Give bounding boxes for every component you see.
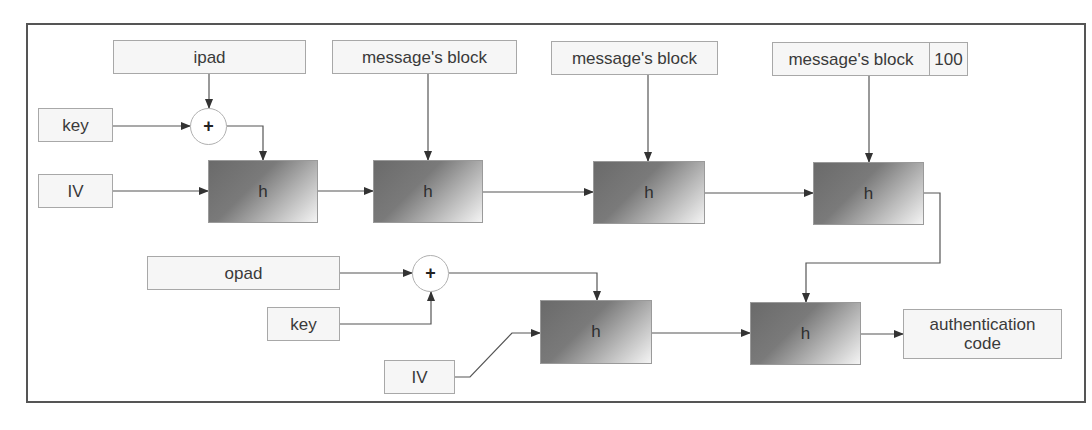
message-block-1: message's block <box>332 40 517 74</box>
hash-function-4: h <box>813 162 924 225</box>
iv-label-outer: IV <box>384 360 455 394</box>
xor-inner-icon: + <box>190 108 227 145</box>
hash-function-2: h <box>373 160 483 223</box>
hash-function-5: h <box>540 300 652 364</box>
hash-function-1: h <box>208 160 318 223</box>
iv-label-inner: IV <box>38 174 113 208</box>
hash-function-6: h <box>750 302 861 365</box>
padding-100: 100 <box>929 43 967 75</box>
authentication-code-output: authentication code <box>903 309 1062 359</box>
message-block-3-text: message's block <box>773 43 929 75</box>
ipad-label: ipad <box>113 40 306 74</box>
hash-function-3: h <box>593 161 705 224</box>
message-block-2: message's block <box>551 41 718 75</box>
key-label-outer: key <box>267 307 340 341</box>
opad-label: opad <box>147 256 340 290</box>
message-block-3: message's block 100 <box>772 42 968 76</box>
xor-outer-icon: + <box>412 255 449 292</box>
key-label-inner: key <box>38 108 113 142</box>
